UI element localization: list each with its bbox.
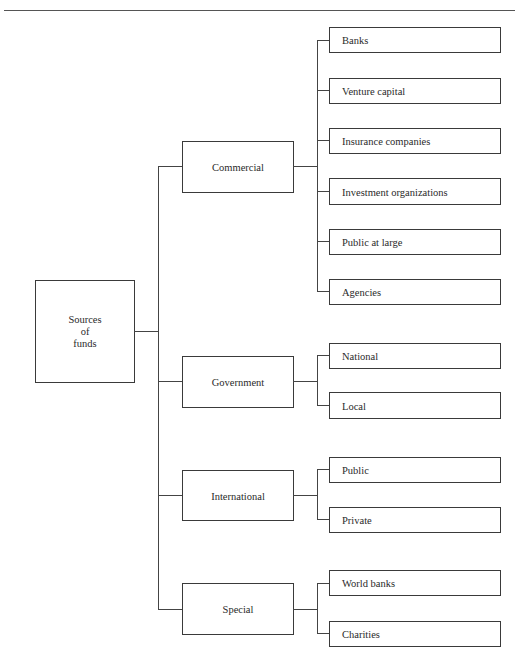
root-node-sources-of-funds: Sources of funds [35,280,135,383]
node-banks: Banks [329,27,501,53]
public-label: Public [342,465,369,476]
government-children-spine [317,355,318,406]
government-label: Government [183,377,293,388]
special-children-spine [317,583,318,634]
connector-venture-capital [317,90,329,91]
node-public-at-large: Public at large [329,229,501,255]
main-spine [158,166,159,610]
node-international: International [182,470,294,521]
connector-investment-organizations [317,191,329,192]
node-venture-capital: Venture capital [329,78,501,104]
node-private: Private [329,507,501,533]
top-rule [4,10,515,11]
connector-special-out [293,609,317,610]
connector-national [317,355,329,356]
node-investment-organizations: Investment organizations [329,178,501,205]
connector-spine-government [158,381,182,382]
investment-organizations-label: Investment organizations [342,186,448,197]
root-label: Sources of funds [36,314,134,350]
connector-insurance-companies [317,140,329,141]
connector-local [317,405,329,406]
root-line-1: Sources [36,314,134,326]
private-label: Private [342,515,372,526]
connector-root-to-spine [134,331,158,332]
connector-spine-international [158,495,182,496]
international-label: International [183,490,293,501]
local-label: Local [342,400,366,411]
connector-spine-special [158,609,182,610]
insurance-companies-label: Insurance companies [342,136,430,147]
node-agencies: Agencies [329,279,501,305]
agencies-label: Agencies [342,287,381,298]
connector-public-at-large [317,241,329,242]
node-local: Local [329,392,501,419]
connector-banks [317,40,329,41]
connector-private [317,519,329,520]
node-charities: Charities [329,621,501,647]
node-special: Special [182,583,294,635]
world-banks-label: World banks [342,578,395,589]
node-world-banks: World banks [329,570,501,596]
connector-government-out [293,381,317,382]
commercial-label: Commercial [183,162,293,173]
connector-charities [317,633,329,634]
root-line-2: of [36,326,134,338]
connector-spine-commercial [158,166,182,167]
node-national: National [329,343,501,369]
node-insurance-companies: Insurance companies [329,128,501,154]
commercial-children-spine [317,40,318,292]
node-public: Public [329,457,501,483]
connector-international-out [293,495,317,496]
charities-label: Charities [342,629,380,640]
connector-agencies [317,291,329,292]
special-label: Special [183,604,293,615]
public-at-large-label: Public at large [342,237,402,248]
national-label: National [342,351,378,362]
root-line-3: funds [36,338,134,350]
connector-commercial-out [293,166,317,167]
venture-capital-label: Venture capital [342,86,405,97]
international-children-spine [317,469,318,520]
connector-world-banks [317,583,329,584]
connector-public [317,469,329,470]
banks-label: Banks [342,35,368,46]
node-commercial: Commercial [182,141,294,193]
node-government: Government [182,356,294,408]
